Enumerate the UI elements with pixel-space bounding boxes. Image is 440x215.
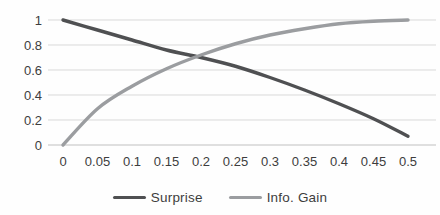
x-tick-label: 0.3 bbox=[261, 154, 279, 169]
x-tick-label: 0.05 bbox=[85, 154, 110, 169]
x-tick-label: 0.45 bbox=[361, 154, 386, 169]
y-tick-label: 0.4 bbox=[24, 88, 42, 103]
plot-area: 00.20.40.60.8100.050.10.150.20.250.30.35… bbox=[0, 0, 440, 186]
legend-label-info-gain: Info. Gain bbox=[267, 190, 328, 205]
x-tick-label: 0.2 bbox=[192, 154, 210, 169]
x-tick-label: 0.1 bbox=[123, 154, 141, 169]
series-line-surprise bbox=[63, 20, 408, 136]
y-tick-label: 0 bbox=[35, 138, 42, 153]
legend-item-info-gain: Info. Gain bbox=[229, 190, 328, 205]
series-line-info-gain bbox=[63, 20, 408, 145]
x-tick-label: 0.25 bbox=[223, 154, 248, 169]
y-tick-label: 0.8 bbox=[24, 38, 42, 53]
legend: Surprise Info. Gain bbox=[0, 186, 440, 208]
legend-label-surprise: Surprise bbox=[151, 190, 203, 205]
y-tick-label: 1 bbox=[35, 13, 42, 28]
legend-item-surprise: Surprise bbox=[113, 190, 203, 205]
entropy-surprise-chart: 00.20.40.60.8100.050.10.150.20.250.30.35… bbox=[0, 0, 440, 215]
info-gain-line-swatch bbox=[229, 196, 262, 199]
x-tick-label: 0.35 bbox=[292, 154, 317, 169]
x-tick-label: 0.15 bbox=[154, 154, 179, 169]
x-tick-label: 0.4 bbox=[330, 154, 348, 169]
y-tick-label: 0.2 bbox=[24, 113, 42, 128]
x-tick-label: 0 bbox=[59, 154, 66, 169]
x-tick-label: 0.5 bbox=[399, 154, 417, 169]
surprise-line-swatch bbox=[113, 196, 146, 199]
y-tick-label: 0.6 bbox=[24, 63, 42, 78]
